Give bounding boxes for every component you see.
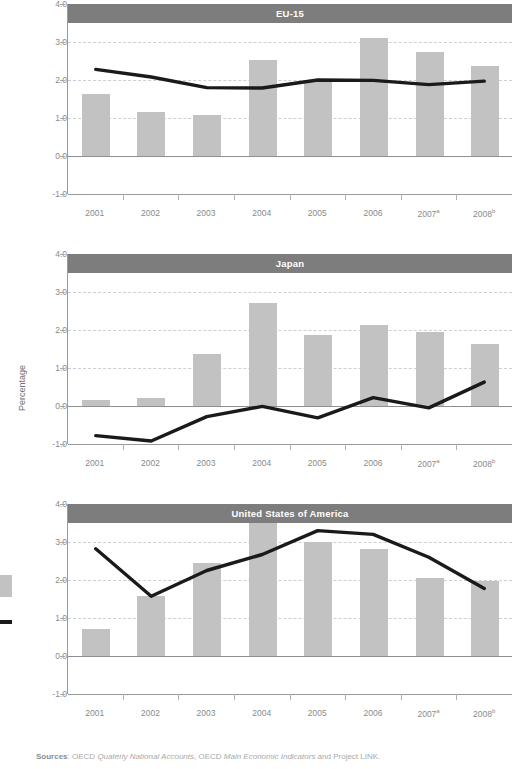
sources-part-1: OECD [72,752,97,761]
x-tick-mark [123,694,124,700]
line-series-eu15 [68,4,512,194]
bar-2005 [304,335,332,406]
bar-2007 [416,52,444,157]
x-tick-mark [178,444,179,450]
bar-2004 [249,303,277,406]
x-tick-mark [401,194,402,200]
x-tick-label-2002: 2002 [141,708,160,718]
bar-2007 [416,578,444,656]
x-axis-japan: 2001200220032004200520062007a2008b [67,450,512,472]
gridline [68,618,512,619]
x-tick-label-2008: 2008b [473,708,495,719]
figure-root: Percentage 4.03.02.01.00.0-1.0EU-1520012… [0,0,524,769]
zero-line [68,156,512,157]
line-series-usa [68,504,512,694]
x-tick-label-2001: 2001 [85,708,104,718]
x-tick-label-2005: 2005 [308,208,327,218]
x-tick-label-2007: 2007a [417,458,439,469]
x-tick-label-2002: 2002 [141,458,160,468]
chart-title-eu15: EU-15 [68,4,512,23]
x-tick-mark [290,444,291,450]
x-tick-label-2003: 2003 [197,458,216,468]
sources-part-2: , OECD [194,752,224,761]
y-tick-mark [60,504,65,505]
gridline [68,542,512,543]
x-tick-label-2007: 2007a [417,208,439,219]
bar-2008 [471,66,499,156]
y-tick-mark [60,292,65,293]
y-tick-mark [60,330,65,331]
x-axis-usa: 2001200220032004200520062007a2008b [67,700,512,722]
x-tick-label-2003: 2003 [197,208,216,218]
y-axis-eu15: 4.03.02.01.00.0-1.0 [30,4,67,194]
line-series-japan [68,254,512,444]
chart-panel-eu15: 4.03.02.01.00.0-1.0EU-152001200220032004… [0,0,524,250]
bar-2007 [416,332,444,406]
bar-2002 [137,112,165,156]
y-tick-mark [60,118,65,119]
gridline [68,580,512,581]
x-tick-mark [178,694,179,700]
y-tick-mark [60,42,65,43]
x-tick-mark [456,444,457,450]
zero-line [68,406,512,407]
x-tick-label-2002: 2002 [141,208,160,218]
bar-2001 [82,629,110,656]
y-tick-mark [60,694,65,695]
bar-2001 [82,94,110,156]
y-tick-mark [60,254,65,255]
bar-2005 [304,82,332,156]
zero-line [68,656,512,657]
x-tick-mark [123,444,124,450]
x-tick-mark [234,444,235,450]
y-tick-mark [60,444,65,445]
x-axis-eu15: 2001200220032004200520062007a2008b [67,200,512,222]
y-tick-mark [60,580,65,581]
x-tick-mark [123,194,124,200]
bar-2004 [249,520,277,656]
x-tick-label-2005: 2005 [308,708,327,718]
bar-2006 [360,549,388,656]
gridline [68,368,512,369]
x-tick-mark [345,694,346,700]
y-tick-mark [60,194,65,195]
x-tick-label-2006: 2006 [363,208,382,218]
y-tick-mark [60,368,65,369]
y-tick-mark [60,542,65,543]
y-axis-usa: 4.03.02.01.00.0-1.0 [30,504,67,694]
sources-italic-2: Main Economic Indicators [224,752,316,761]
bar-2004 [249,60,277,156]
x-tick-label-2006: 2006 [363,458,382,468]
gridline [68,80,512,81]
bar-2003 [193,115,221,156]
sources-note: Sources: OECD Quaterly National Accounts… [36,752,380,761]
x-tick-label-2008: 2008b [473,208,495,219]
y-tick-mark [60,656,65,657]
gridline [68,292,512,293]
bar-2003 [193,563,221,656]
x-tick-mark [234,194,235,200]
plot-area-eu15: EU-15 [67,4,512,194]
bar-2002 [137,596,165,656]
bar-2008 [471,581,499,656]
x-tick-label-2007: 2007a [417,708,439,719]
x-tick-mark [234,694,235,700]
sources-italic-1: Quaterly National Accounts [97,752,194,761]
chart-title-usa: United States of America [68,504,512,523]
y-tick-mark [60,618,65,619]
bar-2006 [360,325,388,406]
x-tick-label-2008: 2008b [473,458,495,469]
bar-2002 [137,398,165,406]
bar-2005 [304,542,332,656]
x-tick-mark [345,194,346,200]
y-tick-mark [60,406,65,407]
x-tick-mark [290,694,291,700]
x-tick-label-2006: 2006 [363,708,382,718]
plot-area-japan: Japan [67,254,512,444]
gridline [68,118,512,119]
gridline [68,42,512,43]
x-tick-mark [401,444,402,450]
x-tick-mark [456,194,457,200]
x-tick-label-2005: 2005 [308,458,327,468]
x-tick-label-2003: 2003 [197,708,216,718]
